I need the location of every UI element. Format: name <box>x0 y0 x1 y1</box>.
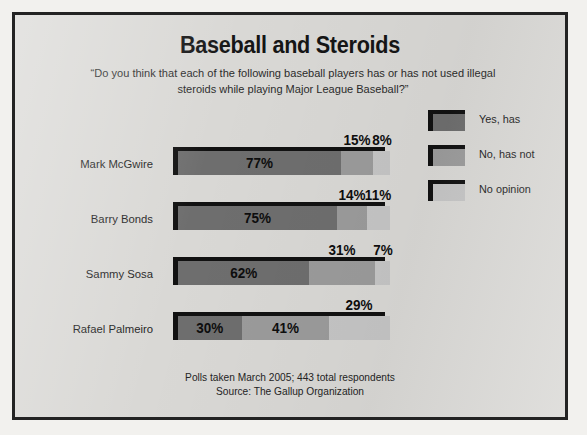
bar-segment-value: 11% <box>365 187 391 203</box>
bar-category-label: Mark McGwire <box>12 158 153 170</box>
footnote-line-poll: Polls taken March 2005; 443 total respon… <box>26 370 554 384</box>
stacked-bar: 77%15%8% <box>173 147 385 175</box>
stacked-bar: 62%31%7% <box>173 257 385 285</box>
chart-panel: Baseball and Steroids “Do you think that… <box>12 12 568 420</box>
bar-segment-no-opinion: 8% <box>373 151 390 175</box>
chart-footnote: Polls taken March 2005; 443 total respon… <box>26 370 554 398</box>
bar-row: Barry Bonds75%14%11% <box>15 202 565 234</box>
bar-category-label: Rafael Palmeiro <box>12 323 153 335</box>
bar-row: Sammy Sosa62%31%7% <box>15 257 565 289</box>
bar-segment-yes-has: 77% <box>178 151 341 175</box>
bar-segment-value: 29% <box>346 297 373 313</box>
bar-segment-no-opinion: 11% <box>367 206 390 230</box>
stacked-bar: 75%14%11% <box>173 202 385 230</box>
bar-segment-value: 30% <box>180 320 239 336</box>
bar-segment-value: 41% <box>245 320 326 336</box>
bar-segment-yes-has: 75% <box>178 206 337 230</box>
bar-segment-no-opinion: 29% <box>329 316 390 340</box>
bar-category-label: Sammy Sosa <box>12 268 153 280</box>
bar-row: Rafael Palmeiro30%41%29% <box>15 312 565 344</box>
bar-segment-value: 8% <box>372 132 392 148</box>
bar-segment-no-has-not: 41% <box>242 316 329 340</box>
bar-segment-yes-has: 62% <box>178 261 309 285</box>
bar-category-label: Barry Bonds <box>12 213 153 225</box>
stacked-bar: 30%41%29% <box>173 312 385 340</box>
bar-segment-no-opinion: 7% <box>375 261 390 285</box>
bar-segment-value: 77% <box>184 155 336 171</box>
bar-segment-value: 75% <box>184 210 332 226</box>
plot-area: Mark McGwire77%15%8%Barry Bonds75%14%11%… <box>15 15 565 417</box>
footnote-line-source: Source: The Gallup Organization <box>26 384 554 398</box>
bar-segment-value: 31% <box>329 242 356 258</box>
bar-segment-value: 7% <box>373 242 393 258</box>
bar-segment-value: 14% <box>338 187 365 203</box>
bar-segment-no-has-not: 15% <box>341 151 373 175</box>
bar-row: Mark McGwire77%15%8% <box>15 147 565 179</box>
bar-segment-no-has-not: 31% <box>309 261 375 285</box>
bar-segment-value: 15% <box>344 132 371 148</box>
bar-segment-no-has-not: 14% <box>337 206 367 230</box>
bar-segment-value: 62% <box>183 265 305 281</box>
bar-segment-yes-has: 30% <box>178 316 242 340</box>
